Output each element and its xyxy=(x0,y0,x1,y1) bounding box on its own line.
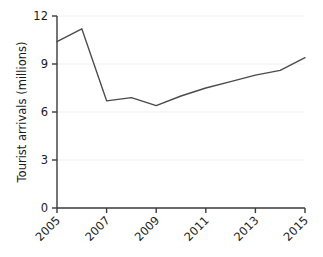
y-tick-label-0: 0 xyxy=(41,201,48,215)
line-chart: 036912 200520072009201120132015 Tourist … xyxy=(0,0,323,257)
y-tick-label-9: 9 xyxy=(41,57,48,71)
y-tick-label-3: 3 xyxy=(41,153,48,167)
y-tick-label-6: 6 xyxy=(41,105,48,119)
chart-canvas: 036912 200520072009201120132015 Tourist … xyxy=(0,0,323,257)
y-axis-title: Tourist arrivals (millions) xyxy=(15,42,29,184)
y-tick-label-12: 12 xyxy=(33,9,48,23)
